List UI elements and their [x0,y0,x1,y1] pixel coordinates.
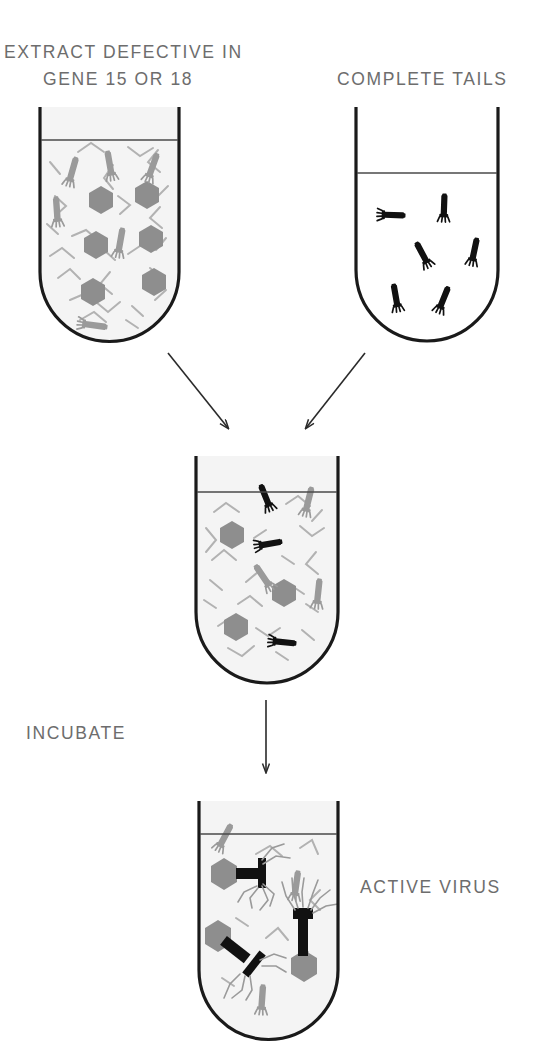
tube-active-virus [199,801,338,1040]
phage-complementation-diagram: EXTRACT DEFECTIVE IN GENE 15 OR 18 COMPL… [0,0,533,1050]
tube-complete-tails [356,107,498,341]
label-complete-tails: COMPLETE TAILS [337,69,508,89]
label-incubate: INCUBATE [26,723,126,743]
tube-fluid-fill [196,456,338,683]
label-active-virus: ACTIVE VIRUS [360,877,501,897]
tube-fluid-fill [199,801,338,1040]
label-extract-line2: GENE 15 OR 18 [43,69,193,89]
tube-fluid-fill [356,107,498,341]
label-extract-line1: EXTRACT DEFECTIVE IN [4,42,243,62]
tube-mixture [196,456,338,683]
tube-extract-defective [40,107,179,342]
